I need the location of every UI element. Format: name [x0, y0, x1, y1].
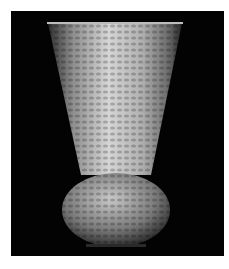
vase-image: [11, 11, 224, 256]
product-photo: [11, 11, 224, 256]
